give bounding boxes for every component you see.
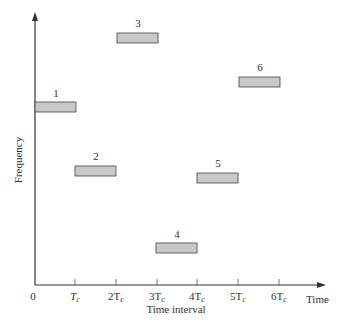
hop-bar <box>75 166 116 176</box>
hop-label: 6 <box>257 61 263 73</box>
hop-bar <box>117 33 158 43</box>
x-axis-title: Time interval <box>146 303 205 315</box>
hop-bar <box>197 173 238 183</box>
x-axis-arrow-icon <box>317 282 326 288</box>
x-axis-end-label: Time <box>306 293 329 305</box>
y-axis-arrow-icon <box>32 12 38 21</box>
tick-1: Tc <box>70 290 80 304</box>
x-tick-labels: 0 Tc 2Tc 3Tc 4Tc 5Tc 6Tc <box>30 290 287 304</box>
tick-4: 4Tc <box>189 290 205 304</box>
tick-0: 0 <box>30 290 36 302</box>
hop-label: 5 <box>215 157 221 169</box>
hop-5: 5 <box>197 157 238 183</box>
hop-label: 4 <box>174 228 180 240</box>
hop-bar <box>35 102 76 112</box>
x-tick-marks <box>75 279 279 285</box>
hop-4: 4 <box>156 228 197 253</box>
hop-label: 1 <box>53 87 59 99</box>
frequency-hopping-diagram: 0 Tc 2Tc 3Tc 4Tc 5Tc 6Tc Time Time inter… <box>0 0 346 330</box>
hop-label: 3 <box>135 17 141 29</box>
hop-bar <box>239 77 280 87</box>
hop-2: 2 <box>75 150 116 176</box>
tick-2: 2Tc <box>108 290 124 304</box>
tick-6: 6Tc <box>271 290 287 304</box>
hop-label: 2 <box>93 150 99 162</box>
y-axis-label: Frequency <box>12 136 24 183</box>
hop-6: 6 <box>239 61 280 87</box>
hop-1: 1 <box>35 87 76 112</box>
hop-3: 3 <box>117 17 158 43</box>
tick-5: 5Tc <box>230 290 246 304</box>
tick-3: 3Tc <box>149 290 165 304</box>
hop-bar <box>156 243 197 253</box>
